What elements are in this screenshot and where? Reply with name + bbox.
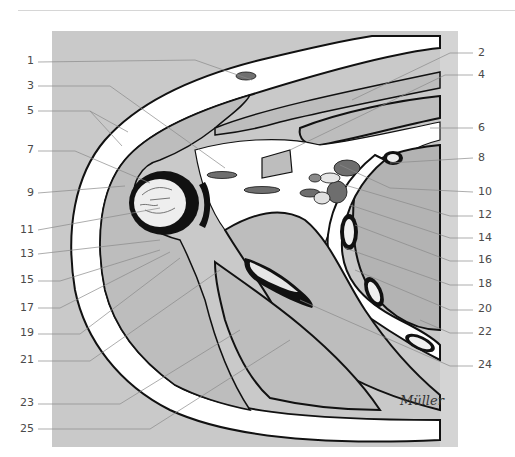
- label-2: 2: [478, 47, 508, 59]
- label-22: 22: [478, 326, 508, 338]
- vessel: [236, 72, 256, 80]
- label-10: 10: [478, 186, 508, 198]
- label-23: 23: [10, 397, 34, 409]
- label-17: 17: [10, 302, 34, 314]
- vessel: [207, 172, 237, 179]
- nerve: [314, 192, 330, 204]
- label-20: 20: [478, 303, 508, 315]
- label-19: 19: [10, 327, 34, 339]
- label-16: 16: [478, 254, 508, 266]
- vessel: [309, 174, 321, 182]
- label-18: 18: [478, 278, 508, 290]
- shoulder-cross-section-illustration: Müller: [0, 0, 515, 457]
- label-12: 12: [478, 209, 508, 221]
- label-14: 14: [478, 232, 508, 244]
- label-25: 25: [10, 423, 34, 435]
- label-21: 21: [10, 354, 34, 366]
- label-8: 8: [478, 152, 508, 164]
- vessel: [244, 187, 280, 194]
- label-13: 13: [10, 248, 34, 260]
- label-1: 1: [10, 55, 34, 67]
- nerve: [320, 173, 340, 183]
- label-15: 15: [10, 274, 34, 286]
- label-5: 5: [10, 105, 34, 117]
- label-3: 3: [10, 80, 34, 92]
- label-7: 7: [10, 144, 34, 156]
- label-11: 11: [10, 224, 34, 236]
- label-24: 24: [478, 359, 508, 371]
- label-4: 4: [478, 69, 508, 81]
- artist-signature: Müller: [399, 393, 445, 408]
- label-6: 6: [478, 122, 508, 134]
- label-9: 9: [10, 187, 34, 199]
- humeral-head: [134, 179, 186, 227]
